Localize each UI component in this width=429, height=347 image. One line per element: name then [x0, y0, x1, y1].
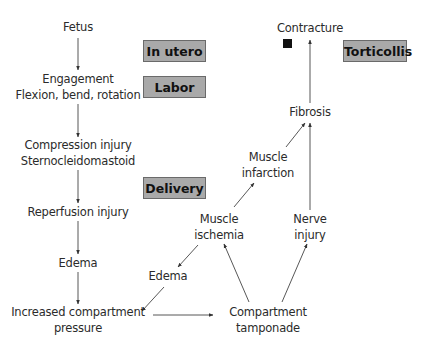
arrow-edema-mid-pressure: [142, 287, 164, 311]
stage-in-utero: In utero: [143, 40, 206, 62]
arrow-ischemia-edema-mid: [178, 245, 198, 267]
node-edema-mid: Edema: [149, 269, 188, 285]
node-muscle-ischemia-line2: ischemia: [194, 228, 244, 244]
node-increased-compartment-label: Increased compartment: [11, 305, 145, 321]
node-contracture-label: Contracture: [277, 21, 343, 35]
node-muscle-ischemia-line1: Muscle: [194, 212, 244, 228]
black-square-marker: [283, 39, 292, 48]
node-edema-mid-label: Edema: [149, 269, 188, 283]
node-compartment-tamponade-line2: tamponade: [229, 321, 307, 337]
stage-torticollis: Torticollis: [343, 40, 407, 62]
node-muscle-infarction-line2: infarction: [242, 166, 294, 182]
node-nerve-injury-line2: injury: [293, 228, 326, 244]
node-fibrosis-label: Fibrosis: [289, 105, 330, 119]
node-compartment-tamponade: Compartment tamponade: [229, 305, 307, 336]
node-pressure-label: pressure: [11, 321, 145, 337]
node-flexion-label: Flexion, bend, rotation: [15, 88, 140, 104]
node-engagement-label: Engagement: [15, 72, 140, 88]
node-reperfusion-injury: Reperfusion injury: [27, 205, 128, 221]
node-contracture: Contracture: [277, 21, 343, 37]
node-engagement: Engagement Flexion, bend, rotation: [15, 72, 140, 103]
node-compression-injury: Compression injury Sternocleidomastoid: [21, 138, 135, 169]
stage-delivery: Delivery: [143, 177, 206, 199]
arrow-infarction-fibrosis: [286, 123, 305, 147]
node-increased-compartment-pressure: Increased compartment pressure: [11, 305, 145, 336]
node-fetus-label: Fetus: [63, 20, 93, 34]
node-muscle-infarction-line1: Muscle: [242, 150, 294, 166]
node-fibrosis: Fibrosis: [289, 105, 330, 121]
node-nerve-injury: Nerve injury: [293, 212, 326, 243]
stage-labor: Labor: [143, 76, 206, 98]
node-fetus: Fetus: [63, 20, 93, 36]
node-edema-left: Edema: [59, 256, 98, 272]
node-nerve-injury-line1: Nerve: [293, 212, 326, 228]
arrow-ischemia-infarction: [234, 183, 254, 207]
node-reperfusion-label: Reperfusion injury: [27, 205, 128, 219]
node-edema-left-label: Edema: [59, 256, 98, 270]
node-muscle-ischemia: Muscle ischemia: [194, 212, 244, 243]
node-compression-label: Compression injury: [21, 138, 135, 154]
arrow-tamponade-ischemia: [224, 244, 249, 302]
node-muscle-infarction: Muscle infarction: [242, 150, 294, 181]
node-compartment-tamponade-line1: Compartment: [229, 305, 307, 321]
arrow-tamponade-nerve: [282, 244, 307, 302]
node-sternocleidomastoid-label: Sternocleidomastoid: [21, 154, 135, 170]
